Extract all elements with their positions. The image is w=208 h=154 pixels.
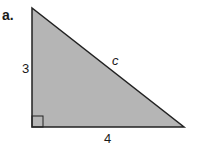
side-label-vertical: 3	[22, 62, 29, 75]
part-label: a.	[2, 8, 14, 22]
right-triangle	[32, 8, 184, 127]
side-label-horizontal: 4	[104, 132, 111, 145]
side-label-hypotenuse: c	[112, 54, 119, 67]
